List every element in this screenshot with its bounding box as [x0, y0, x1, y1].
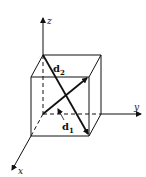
y-axis-label: y — [133, 102, 140, 112]
z-axis-label: z — [46, 16, 52, 26]
vector-d1-label: d1 — [62, 121, 74, 135]
x-axis — [12, 136, 31, 170]
vector-d1 — [43, 78, 87, 114]
x-axis-label: x — [18, 166, 23, 176]
cube-diagram: z y x d2 d1 — [0, 0, 146, 177]
